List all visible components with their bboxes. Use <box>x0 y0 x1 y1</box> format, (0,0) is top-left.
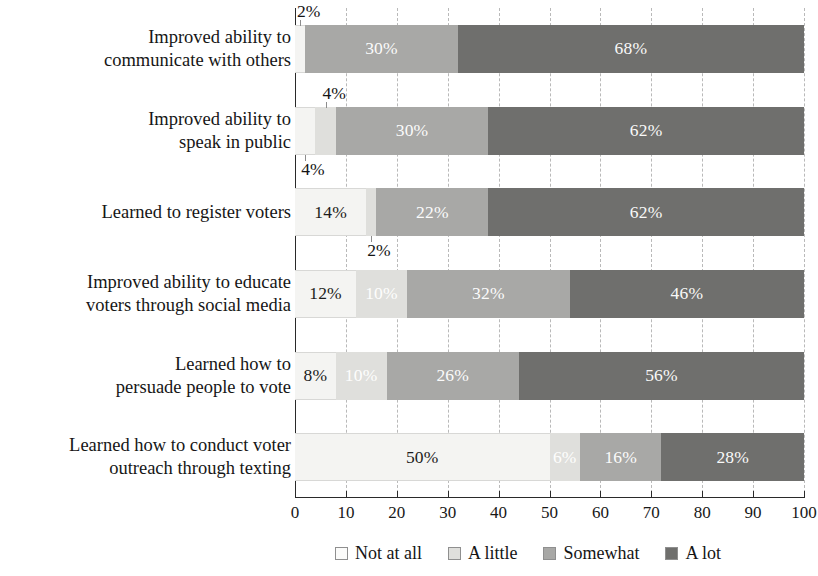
x-axis-tick-label: 90 <box>745 503 762 523</box>
gridline <box>702 8 703 498</box>
x-axis-tick-label: 100 <box>791 503 817 523</box>
gridline <box>346 8 347 498</box>
x-axis-tick-label: 20 <box>388 503 405 523</box>
segment-value-label: 6% <box>553 447 577 468</box>
category-label: Learned how to persuade people to vote <box>0 353 291 399</box>
segment-value-label: 32% <box>472 283 505 304</box>
segment-value-label: 62% <box>630 120 663 141</box>
legend-item[interactable]: A lot <box>665 543 721 564</box>
segment-value-label: 30% <box>365 38 398 59</box>
x-axis-tick <box>600 491 601 498</box>
bar-segment-notatall <box>295 25 305 73</box>
legend-swatch-icon <box>448 547 461 560</box>
bar-segment-alittle: 10% <box>336 352 387 400</box>
bar-segment-alot: 28% <box>661 433 804 481</box>
legend-item[interactable]: Not at all <box>335 543 422 564</box>
category-label: Learned to register voters <box>0 201 291 224</box>
bar-segment-alittle: 6% <box>550 433 581 481</box>
stacked-bar: 50%6%16%28% <box>295 433 804 481</box>
bar-segment-alittle <box>366 188 376 236</box>
segment-value-label: 68% <box>615 38 648 59</box>
stacked-bar: 14%22%62% <box>295 188 804 236</box>
leader-line <box>371 236 372 242</box>
x-axis-tick <box>550 491 551 498</box>
legend-item[interactable]: A little <box>448 543 518 564</box>
segment-value-label: 28% <box>716 447 749 468</box>
x-axis-tick <box>804 491 805 498</box>
legend-item[interactable]: Somewhat <box>543 543 639 564</box>
segment-value-label: 26% <box>436 365 469 386</box>
x-axis-tick-label: 80 <box>694 503 711 523</box>
segment-value-label: 22% <box>416 202 449 223</box>
bar-segment-somewhat: 26% <box>387 352 519 400</box>
callout-value-label: 4% <box>301 159 324 180</box>
segment-value-label: 62% <box>630 202 663 223</box>
gridline <box>804 8 805 498</box>
x-axis-tick-label: 60 <box>592 503 609 523</box>
stacked-bar: 8%10%26%56% <box>295 352 804 400</box>
segment-value-label: 16% <box>604 447 637 468</box>
segment-value-label: 56% <box>645 365 678 386</box>
x-axis-tick-label: 50 <box>541 503 558 523</box>
bar-segment-notatall: 8% <box>295 352 336 400</box>
segment-value-label: 30% <box>396 120 429 141</box>
segment-value-label: 50% <box>406 447 439 468</box>
x-axis-tick-label: 0 <box>291 503 300 523</box>
x-axis-tick <box>499 491 500 498</box>
callout-value-label: 4% <box>323 83 346 104</box>
legend-swatch-icon <box>335 547 348 560</box>
gridline <box>448 8 449 498</box>
callout-value-label: 2% <box>297 1 320 22</box>
segment-value-label: 10% <box>365 283 398 304</box>
x-axis-tick <box>346 491 347 498</box>
category-label: Improved ability to communicate with oth… <box>0 26 291 72</box>
bar-segment-alot: 68% <box>458 25 804 73</box>
gridline <box>397 8 398 498</box>
gridline <box>550 8 551 498</box>
bar-segment-alot: 56% <box>519 352 804 400</box>
bar-segment-notatall: 14% <box>295 188 366 236</box>
chart-legend: Not at allA littleSomewhatA lot <box>335 541 747 565</box>
bar-segment-somewhat: 22% <box>376 188 488 236</box>
x-axis-tick <box>295 491 296 498</box>
y-axis-line <box>295 8 296 498</box>
bar-segment-alot: 46% <box>570 270 804 318</box>
leader-line <box>300 20 301 26</box>
stacked-bar: 30%62% <box>295 107 804 155</box>
segment-value-label: 10% <box>345 365 378 386</box>
x-axis-tick <box>651 491 652 498</box>
category-label: Learned how to conduct voter outreach th… <box>0 434 291 480</box>
legend-label: A little <box>468 543 518 564</box>
x-axis-tick <box>448 491 449 498</box>
bar-segment-somewhat: 16% <box>580 433 661 481</box>
stacked-bar: 12%10%32%46% <box>295 270 804 318</box>
bar-segment-somewhat: 30% <box>305 25 458 73</box>
bar-segment-alot: 62% <box>488 107 804 155</box>
x-axis-tick-label: 30 <box>439 503 456 523</box>
category-label: Improved ability to speak in public <box>0 108 291 154</box>
gridline <box>651 8 652 498</box>
legend-label: Somewhat <box>563 543 639 564</box>
bar-segment-somewhat: 32% <box>407 270 570 318</box>
leader-line <box>326 102 327 108</box>
gridline <box>499 8 500 498</box>
stacked-bar: 30%68% <box>295 25 804 73</box>
bar-segment-notatall: 12% <box>295 270 356 318</box>
x-axis-tick <box>397 491 398 498</box>
bar-segment-alittle <box>315 107 335 155</box>
leader-line <box>305 155 306 161</box>
bar-segment-notatall <box>295 107 315 155</box>
segment-value-label: 12% <box>309 283 342 304</box>
x-axis-tick-label: 70 <box>643 503 660 523</box>
x-axis-tick <box>702 491 703 498</box>
legend-label: A lot <box>685 543 721 564</box>
bar-segment-somewhat: 30% <box>336 107 489 155</box>
x-axis-tick-label: 10 <box>337 503 354 523</box>
segment-value-label: 14% <box>314 202 347 223</box>
callout-value-label: 2% <box>367 240 390 261</box>
bar-segment-alittle: 10% <box>356 270 407 318</box>
stacked-bar-chart: 0102030405060708090100 Improved ability … <box>0 0 818 576</box>
category-label: Improved ability to educate voters throu… <box>0 271 291 317</box>
x-axis-tick <box>753 491 754 498</box>
x-axis-tick-label: 40 <box>490 503 507 523</box>
